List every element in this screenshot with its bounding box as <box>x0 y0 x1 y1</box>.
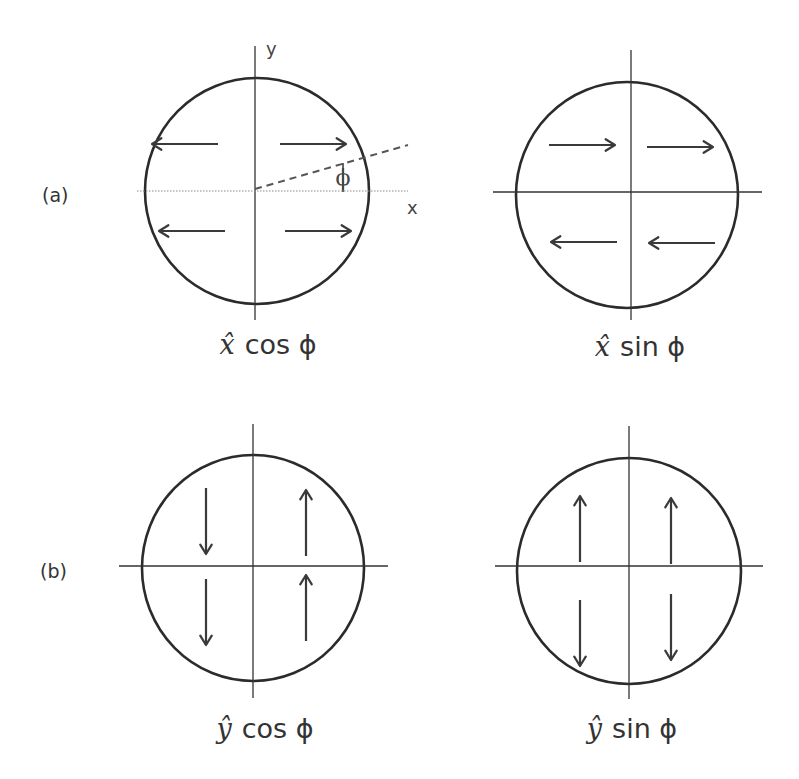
field-pattern-diagram: (a) (b) ϕxyx̂cos ϕ x̂sin ϕ ŷcos ϕ ŷsin ϕ <box>0 0 799 779</box>
unit-vector-symbol: ŷ <box>215 713 232 744</box>
panel-x-cos-phi: ϕxyx̂cos ϕ <box>137 38 418 360</box>
unit-vector-symbol: x̂ <box>219 329 234 360</box>
unit-vector-symbol: ŷ <box>586 713 603 744</box>
trig-function: cos ϕ <box>242 713 314 744</box>
panel-caption: ŷsin ϕ <box>586 713 677 744</box>
panel-caption: x̂sin ϕ <box>595 331 685 362</box>
field-arrow-upper-left-left <box>152 138 218 149</box>
field-arrow-lower-right-up <box>300 575 311 641</box>
panel-y-cos-phi: ŷcos ϕ <box>119 424 388 744</box>
panel-x-sin-phi: x̂sin ϕ <box>493 50 762 362</box>
field-arrow-lower-right-down <box>665 594 676 660</box>
unit-vector-symbol: x̂ <box>595 331 610 362</box>
field-arrow-lower-right-right <box>285 225 351 236</box>
phi-angle-label: ϕ <box>336 165 351 190</box>
field-arrow-lower-left-down <box>200 579 211 645</box>
field-arrow-lower-left-left <box>551 236 617 247</box>
panel-y-sin-phi: ŷsin ϕ <box>495 426 763 744</box>
trig-function: sin ϕ <box>620 331 685 362</box>
field-arrow-upper-left-down <box>200 488 211 554</box>
field-arrow-upper-right-up <box>665 498 676 564</box>
field-arrow-lower-left-left <box>159 225 225 236</box>
field-arrow-lower-left-down <box>574 600 585 666</box>
field-arrow-upper-right-up <box>300 490 311 556</box>
panel-caption: x̂cos ϕ <box>219 329 316 360</box>
panel-caption: ŷcos ϕ <box>215 713 313 744</box>
x-axis-label: x <box>407 197 418 218</box>
field-arrow-upper-right-right <box>280 138 346 149</box>
field-arrow-upper-left-right <box>549 139 615 150</box>
aperture-circle <box>516 82 738 308</box>
field-arrow-upper-right-right <box>647 141 713 152</box>
trig-function: sin ϕ <box>612 713 677 744</box>
trig-function: cos ϕ <box>245 329 317 360</box>
row-label-a: (a) <box>42 184 68 206</box>
field-arrow-lower-right-left <box>649 237 715 248</box>
y-axis-label: y <box>266 38 277 59</box>
row-label-b: (b) <box>40 560 67 582</box>
field-arrow-upper-left-up <box>574 496 585 562</box>
angle-ray-dashed <box>255 145 408 189</box>
